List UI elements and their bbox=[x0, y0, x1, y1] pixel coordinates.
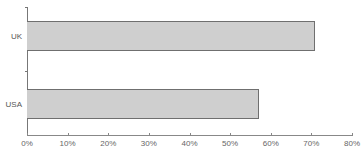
x-tick-label: 10% bbox=[48, 139, 88, 148]
bar-uk bbox=[27, 21, 315, 51]
x-axis-tick bbox=[311, 133, 312, 136]
x-axis-tick bbox=[149, 133, 150, 136]
x-axis-tick bbox=[190, 133, 191, 136]
x-axis-tick bbox=[271, 133, 272, 136]
x-tick-label: 60% bbox=[251, 139, 291, 148]
x-tick-label: 20% bbox=[88, 139, 128, 148]
x-axis-tick bbox=[108, 133, 109, 136]
x-axis-tick bbox=[68, 133, 69, 136]
x-tick-label: 0% bbox=[7, 139, 47, 148]
category-label-uk: UK bbox=[0, 32, 22, 41]
x-tick-label: 30% bbox=[129, 139, 169, 148]
y-axis-tick bbox=[25, 71, 28, 72]
x-tick-label: 70% bbox=[291, 139, 331, 148]
y-axis-tick bbox=[25, 7, 28, 8]
category-label-usa: USA bbox=[0, 100, 22, 109]
x-axis-tick bbox=[27, 133, 28, 136]
x-axis-tick bbox=[230, 133, 231, 136]
x-tick-label: 50% bbox=[210, 139, 250, 148]
bar-usa bbox=[27, 89, 259, 119]
x-tick-label: 40% bbox=[170, 139, 210, 148]
horizontal-bar-chart: UK USA 0%10%20%30%40%50%60%70%80% bbox=[0, 0, 363, 156]
x-tick-label: 80% bbox=[332, 139, 363, 148]
x-axis-tick bbox=[352, 133, 353, 136]
